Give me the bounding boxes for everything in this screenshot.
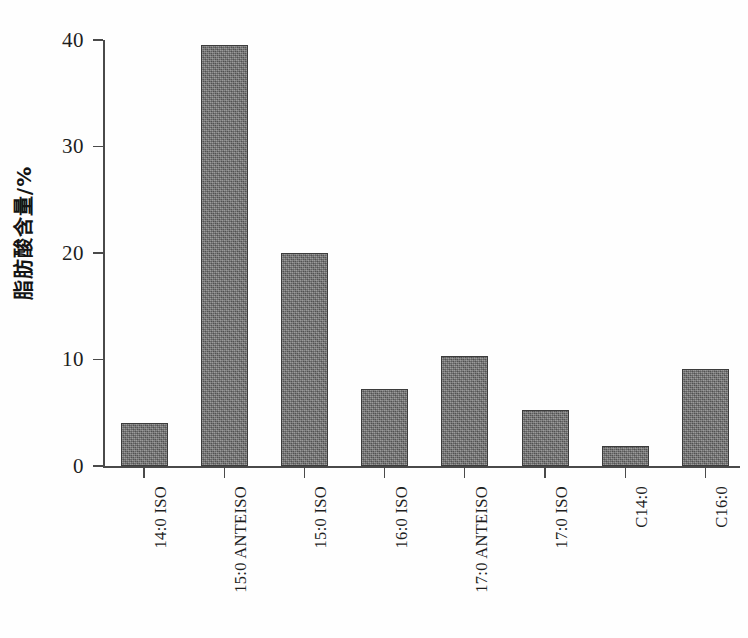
x-axis-tick-label: 15:0 ISO: [311, 486, 331, 548]
x-axis-tick-label: 16:0 ISO: [392, 486, 412, 548]
bar-chart-figure: 脂肪酸含量/% 010203040 14:0 ISO15:0 ANTEISO15…: [0, 0, 748, 638]
bar: [522, 410, 569, 466]
x-axis-tick: [625, 467, 626, 478]
bar: [281, 253, 328, 466]
y-axis-tick-label: 20: [62, 240, 84, 265]
bar: [602, 446, 649, 466]
x-axis-tick: [143, 467, 144, 478]
x-axis-tick-label: 17:0 ANTEISO: [472, 486, 492, 593]
y-axis-tick: 0: [93, 465, 103, 466]
y-axis-tick: 40: [93, 39, 103, 40]
y-axis-title: 脂肪酸含量/%: [8, 166, 37, 300]
x-axis-tick: [304, 467, 305, 478]
y-axis-tick-label: 10: [62, 347, 84, 372]
x-axis-tick-label: C16:0: [712, 486, 732, 528]
bar: [441, 356, 488, 466]
x-axis-tick: [224, 467, 225, 478]
x-axis-line: [103, 466, 740, 468]
y-axis-tick: 10: [93, 359, 103, 360]
x-axis-tick-label: 14:0 ISO: [151, 486, 171, 548]
bar: [682, 369, 729, 466]
x-axis-tick: [544, 467, 545, 478]
bar: [201, 45, 248, 466]
y-axis-tick: 30: [93, 146, 103, 147]
y-axis-tick-label: 30: [62, 134, 84, 159]
x-axis-tick-label: 15:0 ANTEISO: [231, 486, 251, 593]
x-axis-tick-label: C14:0: [632, 486, 652, 528]
x-axis-tick: [705, 467, 706, 478]
y-axis-tick-label: 0: [73, 453, 84, 478]
bar: [121, 423, 168, 466]
bar: [361, 389, 408, 466]
y-axis-tick-label: 40: [62, 27, 84, 52]
x-axis-tick: [464, 467, 465, 478]
plot-area: [103, 40, 740, 466]
x-axis-tick-label: 17:0 ISO: [552, 486, 572, 548]
x-axis-tick: [384, 467, 385, 478]
y-axis-tick: 20: [93, 252, 103, 253]
